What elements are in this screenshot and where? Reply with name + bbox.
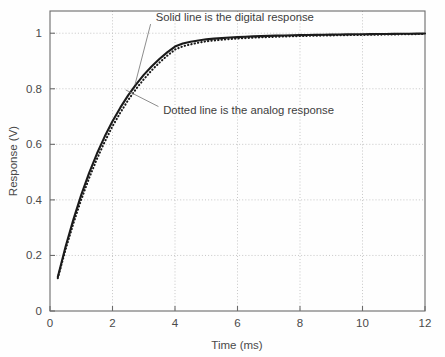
y-tick-label: 0 [36,305,42,317]
x-tick-label: 2 [109,317,115,329]
y-tick-label: 0.4 [26,194,43,206]
x-tick-label: 8 [297,317,303,329]
annotation-label-2: Dotted line is the analog response [163,104,334,116]
figure-container: 02468101200.20.40.60.81 Solid line is th… [0,0,445,357]
gridlines-group [50,11,425,311]
x-tick-label: 12 [419,317,432,329]
y-tick-label: 0.6 [26,138,42,150]
y-tick-label: 0.2 [26,249,42,261]
y-tick-label: 1 [36,27,42,39]
y-tick-label: 0.8 [26,83,42,95]
annotation-leader-line-2 [126,90,159,107]
tickmarks-group [50,33,425,311]
x-tick-label: 10 [356,317,369,329]
y-axis-title: Response (V) [7,126,19,196]
x-axis-title: Time (ms) [211,339,262,351]
x-tick-label: 0 [47,317,53,329]
x-tick-label: 6 [234,317,240,329]
chart-canvas: 02468101200.20.40.60.81 Solid line is th… [0,0,445,357]
annotation-label-1: Solid line is the digital response [156,11,314,23]
x-tick-label: 4 [172,317,179,329]
annotation-labels-group: Solid line is the digital responseDotted… [156,11,334,116]
